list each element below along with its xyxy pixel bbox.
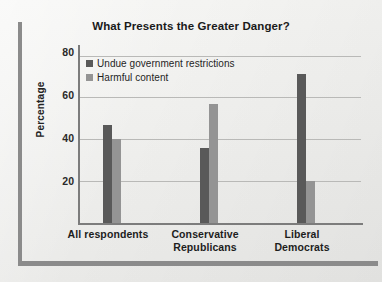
legend-label-series-2: Harmful content [97, 72, 168, 83]
chart-title: What Presents the Greater Danger? [0, 20, 382, 32]
bar-liberal-democrats-harmful-content [306, 181, 315, 223]
x-category-label-line: Liberal [242, 228, 362, 241]
y-axis-line [78, 45, 80, 224]
x-category-label-liberal-democrats: Liberal Democrats [242, 228, 362, 254]
bar-all-respondents-undue-government-restrictions [103, 125, 112, 223]
y-tick-label-80: 80 [48, 46, 74, 58]
legend-item-harmful-content: Harmful content [86, 71, 235, 84]
y-tick-label-60: 60 [48, 89, 74, 101]
y-tick-label-20: 20 [48, 175, 74, 187]
gridline-60 [79, 97, 361, 98]
legend-swatch-icon-series-1 [86, 60, 93, 67]
gridline-40 [79, 139, 361, 140]
legend-swatch-icon-series-2 [86, 74, 93, 81]
legend-label-series-1: Undue government restrictions [97, 58, 235, 69]
chart-legend: Undue government restrictions Harmful co… [86, 57, 235, 85]
bar-all-respondents-harmful-content [112, 139, 121, 223]
y-axis-label: Percentage [35, 68, 46, 152]
gridline-20 [79, 181, 361, 182]
legend-item-undue-government-restrictions: Undue government restrictions [86, 57, 235, 70]
x-category-label-line: Democrats [242, 241, 362, 254]
bar-chart: What Presents the Greater Danger? Percen… [0, 0, 382, 282]
bar-conservative-republicans-harmful-content [209, 104, 218, 223]
bar-conservative-republicans-undue-government-restrictions [200, 148, 209, 223]
bar-liberal-democrats-undue-government-restrictions [297, 74, 306, 223]
y-tick-label-40: 40 [48, 132, 74, 144]
chart-figure: What Presents the Greater Danger? Percen… [0, 0, 382, 282]
x-axis-line [78, 223, 363, 225]
